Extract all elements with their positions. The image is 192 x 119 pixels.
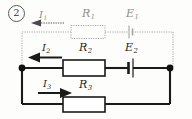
label-emf-e1: E1 [126,8,138,19]
label-current-i3: I3 [43,79,51,89]
label-current-i2: I2 [42,43,50,53]
middle-branch-solid [22,53,170,78]
circuit-diagram-figure: 2 [0,0,192,119]
label-resistor-r1: R1 [82,8,95,19]
label-resistor-r2: R2 [79,42,92,53]
current-i2-arrowhead [28,53,40,63]
current-i1-arrowhead [31,19,41,26]
resistor-r3-body [63,97,105,112]
junction-node-left [19,65,26,72]
resistor-r2-body [63,60,105,76]
label-emf-e2: E2 [125,42,137,53]
label-resistor-r3: R3 [79,79,92,90]
resistor-r1-body [71,26,105,39]
label-current-i1: I1 [39,10,47,20]
circuit-schematic [0,0,192,119]
junction-node-right [167,65,174,72]
